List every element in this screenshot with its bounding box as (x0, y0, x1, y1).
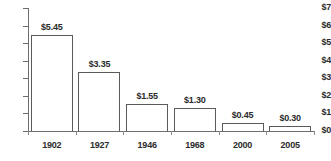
y-axis-label: $4 (309, 56, 331, 65)
x-axis-tick (28, 131, 29, 135)
x-axis-tick (171, 131, 172, 135)
bar (31, 35, 73, 131)
bar-chart: $7$6$5$4$3$2$1$0 $5.45$3.35$1.55$1.30$0.… (0, 0, 331, 161)
y-axis-label: $2 (309, 91, 331, 100)
bar (78, 72, 120, 131)
x-axis-tick (123, 131, 124, 135)
bar (222, 123, 264, 131)
x-axis-tick (76, 131, 77, 135)
bar-value-label: $5.45 (22, 22, 82, 32)
x-axis-tick (266, 131, 267, 135)
x-axis-tick (314, 131, 315, 135)
x-axis-label: 2005 (260, 140, 320, 150)
bar (174, 108, 216, 131)
y-axis-label: $6 (309, 21, 331, 30)
x-axis-tick (219, 131, 220, 135)
bar-value-label: $3.35 (70, 59, 130, 69)
y-axis-label: $5 (309, 38, 331, 47)
bar-value-label: $0.30 (260, 113, 320, 123)
y-axis-label: $3 (309, 73, 331, 82)
bar (269, 126, 311, 131)
bar-value-label: $1.30 (165, 95, 225, 105)
bar (126, 104, 168, 131)
y-axis-label: $7 (309, 3, 331, 12)
